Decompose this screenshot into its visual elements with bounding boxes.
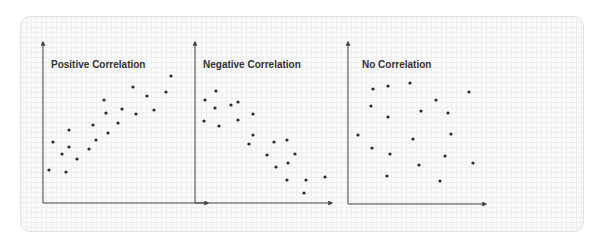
- chart-title: Positive Correlation: [51, 59, 145, 70]
- data-point: [202, 119, 205, 122]
- data-point: [47, 168, 50, 171]
- data-point: [434, 98, 437, 101]
- chart-title: Negative Correlation: [203, 59, 301, 70]
- data-point: [247, 142, 250, 145]
- data-point: [152, 108, 155, 111]
- data-point: [438, 179, 441, 182]
- data-point: [371, 87, 374, 90]
- no-correlation-chart: No Correlation: [348, 42, 486, 204]
- data-point: [385, 174, 388, 177]
- data-point: [120, 107, 123, 110]
- data-point: [386, 84, 389, 87]
- data-point: [94, 138, 97, 141]
- data-point: [131, 85, 134, 88]
- data-point: [369, 104, 372, 107]
- data-point: [75, 157, 78, 160]
- data-point: [411, 137, 414, 140]
- data-point: [214, 89, 217, 92]
- data-point: [408, 81, 411, 84]
- data-point: [467, 90, 470, 93]
- data-point: [251, 112, 254, 115]
- chart-title: No Correlation: [362, 59, 431, 70]
- data-point: [64, 170, 67, 173]
- data-point: [60, 152, 63, 155]
- data-point: [446, 111, 449, 114]
- data-point: [251, 133, 254, 136]
- data-point: [51, 140, 54, 143]
- data-point: [229, 103, 232, 106]
- data-points: [356, 81, 474, 182]
- data-point: [370, 146, 373, 149]
- data-point: [217, 124, 220, 127]
- data-points: [47, 74, 172, 173]
- data-points: [202, 89, 326, 194]
- data-point: [302, 191, 305, 194]
- data-point: [106, 131, 109, 134]
- data-point: [293, 152, 296, 155]
- data-point: [388, 152, 391, 155]
- data-point: [104, 111, 107, 114]
- data-point: [419, 109, 422, 112]
- data-point: [356, 133, 359, 136]
- scatter-plots: Positive Correlation Negative Correlatio…: [0, 0, 602, 246]
- data-point: [203, 98, 206, 101]
- data-point: [67, 128, 70, 131]
- data-point: [116, 121, 119, 124]
- data-point: [265, 153, 268, 156]
- data-point: [87, 147, 90, 150]
- data-point: [134, 112, 137, 115]
- data-point: [102, 98, 105, 101]
- data-point: [471, 161, 474, 164]
- data-point: [285, 178, 288, 181]
- negative-correlation-chart: Negative Correlation: [195, 42, 332, 203]
- data-point: [236, 118, 239, 121]
- data-point: [443, 154, 446, 157]
- data-point: [67, 145, 70, 148]
- data-point: [213, 106, 216, 109]
- data-point: [164, 90, 167, 93]
- data-point: [386, 115, 389, 118]
- data-point: [274, 165, 277, 168]
- data-point: [236, 100, 239, 103]
- data-point: [323, 175, 326, 178]
- data-point: [449, 132, 452, 135]
- data-point: [91, 123, 94, 126]
- data-point: [145, 94, 148, 97]
- data-point: [286, 161, 289, 164]
- data-point: [169, 74, 172, 77]
- data-point: [304, 178, 307, 181]
- data-point: [417, 163, 420, 166]
- data-point: [285, 138, 288, 141]
- data-point: [272, 140, 275, 143]
- positive-correlation-chart: Positive Correlation: [43, 42, 208, 203]
